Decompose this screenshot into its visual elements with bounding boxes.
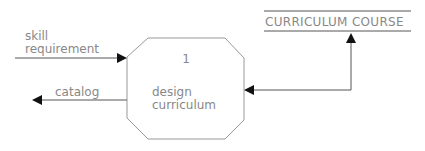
process-label-line2: curriculum bbox=[152, 98, 216, 112]
process-to-store-arrowhead-icon bbox=[346, 33, 356, 43]
output-flow-label: catalog bbox=[55, 85, 99, 99]
process-label-line1: design bbox=[152, 85, 192, 99]
input-flow-label-line2: requirement bbox=[25, 42, 99, 56]
diagram-canvas: 1 design curriculum CURRICULUM COURSE sk… bbox=[0, 0, 425, 151]
input-flow-label-line1: skill bbox=[25, 29, 48, 43]
process-number: 1 bbox=[182, 52, 190, 66]
data-store-label: CURRICULUM COURSE bbox=[265, 15, 404, 29]
output-arrowhead-icon bbox=[32, 95, 42, 105]
store-to-process-arrowhead-icon bbox=[244, 85, 254, 95]
input-arrowhead-icon bbox=[117, 53, 127, 63]
